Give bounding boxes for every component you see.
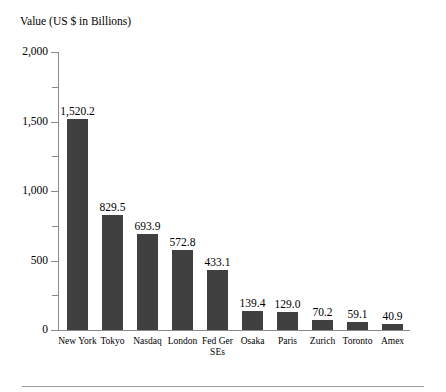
y-tick-label-text: 1,000 [4, 185, 48, 197]
y-tick-label: 0 [0, 324, 48, 336]
plot-area: 05001,0001,5002,000 1,520.2829.5693.9572… [0, 0, 446, 392]
y-tick-label: 1,500 [0, 116, 48, 128]
x-category-label: Amex [363, 336, 423, 347]
bar-value-label: 829.5 [83, 201, 143, 213]
y-tick-major [51, 52, 59, 53]
bar[interactable] [382, 324, 403, 330]
y-tick-label: 2,000 [0, 46, 48, 58]
y-tick-label: 500 [0, 255, 48, 267]
bar-chart-figure: Value (US $ in Billions) 05001,0001,5002… [0, 0, 446, 392]
y-tick-major [51, 261, 59, 262]
y-tick-minor [52, 226, 59, 227]
bar[interactable] [347, 322, 368, 330]
x-category-label-line: SEs [188, 347, 248, 358]
bar-value-label: 572.8 [153, 236, 213, 248]
y-tick-major [51, 191, 59, 192]
y-tick-major [51, 330, 59, 331]
y-tick-minor [52, 156, 59, 157]
y-tick-label-text: 1,500 [4, 116, 48, 128]
bar[interactable] [67, 119, 88, 330]
bar-value-label: 693.9 [118, 220, 178, 232]
bar[interactable] [242, 311, 263, 330]
y-tick-minor [52, 295, 59, 296]
footer-divider [22, 386, 424, 387]
y-tick-label: 1,000 [0, 185, 48, 197]
x-category-label-line: Amex [381, 336, 404, 346]
bar[interactable] [312, 320, 333, 330]
y-tick-label-text: 2,000 [4, 46, 48, 58]
y-tick-label-text: 0 [4, 324, 48, 336]
y-tick-minor [52, 87, 59, 88]
y-tick-label-text: 500 [4, 255, 48, 267]
bar[interactable] [102, 215, 123, 330]
x-axis-line [58, 330, 410, 331]
y-tick-major [51, 122, 59, 123]
bar-value-label: 433.1 [188, 256, 248, 268]
bar-value-label: 40.9 [363, 310, 423, 322]
bar-value-label: 1,520.2 [48, 105, 108, 117]
